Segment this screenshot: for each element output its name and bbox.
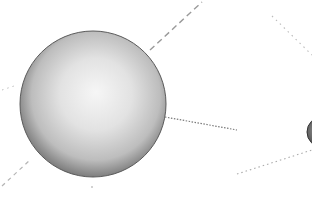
lower-left-dashed-line [2,160,30,186]
middle-dotted-line [165,117,237,130]
lower-right-dotted-line [237,150,312,174]
upper-dashed-line [150,2,202,50]
diagram-canvas [0,0,312,203]
main-sphere [20,31,166,177]
upper-right-dotted-line [272,16,312,55]
left-dotted-line [2,86,14,90]
edge-sphere [307,117,312,147]
small-tick-mark [91,186,93,188]
